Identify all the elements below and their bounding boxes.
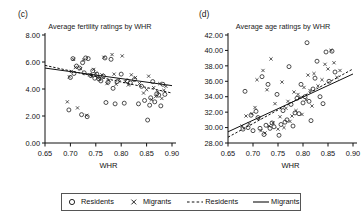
- svg-text:40.00: 40.00: [205, 46, 224, 55]
- svg-text:42.00: 42.00: [205, 31, 224, 40]
- svg-text:6.00: 6.00: [26, 58, 40, 67]
- svg-text:WHR: WHR: [99, 161, 118, 170]
- svg-text:0.90: 0.90: [346, 149, 360, 158]
- svg-text:36.00: 36.00: [205, 77, 224, 86]
- svg-text:0.75: 0.75: [271, 149, 285, 158]
- panel-c-plot: 0.002.004.006.008.000.650.700.750.800.85…: [0, 0, 180, 185]
- svg-text:34.00: 34.00: [205, 92, 224, 101]
- svg-text:38.00: 38.00: [205, 62, 224, 71]
- dashed-line-marker-icon: [186, 197, 204, 207]
- svg-text:0.85: 0.85: [321, 149, 335, 158]
- legend-item-migrants-line: Migrants: [252, 197, 299, 207]
- panel-d: (d) Average age ratings by WHR 28.0030.0…: [181, 0, 361, 185]
- legend-item-residents-points: Residents: [66, 197, 114, 207]
- solid-line-marker-icon: [252, 197, 270, 207]
- svg-text:0.65: 0.65: [38, 149, 52, 158]
- svg-text:0.80: 0.80: [296, 149, 310, 158]
- legend-item-residents-line: Residents: [186, 197, 238, 207]
- svg-text:0.90: 0.90: [165, 149, 179, 158]
- legend-label-2: Migrants: [143, 197, 171, 207]
- figure-container: (c) Average fertility ratings by WHR 0.0…: [0, 0, 361, 223]
- svg-text:28.00: 28.00: [205, 139, 224, 148]
- svg-text:8.00: 8.00: [26, 31, 40, 40]
- panel-d-plot: 28.0030.0032.0034.0036.0038.0040.0042.00…: [181, 0, 361, 185]
- legend-item-migrants-points: Migrants: [128, 197, 171, 207]
- legend-label-4: Migrants: [271, 197, 299, 207]
- svg-text:32.00: 32.00: [205, 108, 224, 117]
- svg-text:0.85: 0.85: [139, 149, 153, 158]
- svg-text:0.75: 0.75: [89, 149, 103, 158]
- panel-c: (c) Average fertility ratings by WHR 0.0…: [0, 0, 180, 185]
- svg-text:WHR: WHR: [281, 161, 300, 170]
- svg-text:0.80: 0.80: [114, 149, 128, 158]
- svg-text:4.00: 4.00: [26, 85, 40, 94]
- svg-text:0.70: 0.70: [63, 149, 77, 158]
- circle-marker-icon: [66, 197, 80, 207]
- svg-text:0.70: 0.70: [246, 149, 260, 158]
- legend-label-3: Residents: [205, 197, 238, 207]
- cross-marker-icon: [128, 197, 142, 207]
- svg-text:0.65: 0.65: [221, 149, 235, 158]
- svg-text:30.00: 30.00: [205, 123, 224, 132]
- svg-text:2.00: 2.00: [26, 112, 40, 121]
- legend-label-1: Residents: [81, 197, 114, 207]
- legend: Residents Migrants Residents Migrants: [61, 193, 301, 211]
- svg-text:0.00: 0.00: [26, 139, 40, 148]
